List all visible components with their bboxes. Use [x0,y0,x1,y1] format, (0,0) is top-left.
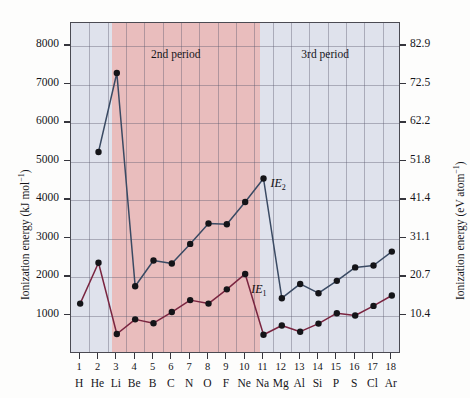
data-point [334,310,340,316]
series-label-ie1: IE1 [251,282,266,298]
data-point [150,257,156,263]
data-point [297,281,303,287]
data-point [95,260,101,266]
y-tick-label-left: 1000 [0,307,59,319]
series-label-ie1-sub: 1 [262,289,266,298]
data-point [297,328,303,334]
y-tick-right [400,44,406,46]
y-tick-label-left: 3000 [0,230,59,242]
series-label-ie2: IE2 [271,176,286,192]
data-point [260,175,266,181]
y-tick-label-right: 20.7 [410,268,430,280]
data-point [187,241,193,247]
annotation-3rd-period: 3rd period [301,48,349,60]
y-tick-label-left: 8000 [0,37,59,49]
y-axis-right-title-sup: −1 [452,165,461,174]
data-point [169,309,175,315]
data-point [370,303,376,309]
data-point [205,300,211,306]
data-point [169,260,175,266]
x-tick [207,353,208,359]
data-point [370,262,376,268]
y-tick-right [400,237,406,239]
data-point [187,297,193,303]
y-axis-left-title-sup: −1 [17,173,26,182]
x-tick [372,353,373,359]
y-axis-right-title: Ionization energy (eV atom−1) [452,161,466,300]
series-label-ie2-main: IE [271,176,282,190]
x-tick [79,353,80,359]
y-tick-label-right: 82.9 [410,37,430,49]
series-line-ie1 [80,263,392,335]
x-tick [225,353,226,359]
data-point [260,332,266,338]
x-tick-label-number: 18 [376,361,406,372]
data-point [334,278,340,284]
data-point [315,290,321,296]
y-axis-left-title-post: ) [19,169,31,173]
data-point [150,320,156,326]
chart-root: Ionization energy (kJ mol−1) Ionization … [0,0,470,398]
data-point [132,316,138,322]
y-tick-label-left: 2000 [0,268,59,280]
x-tick [317,353,318,359]
x-tick [335,353,336,359]
y-tick-label-left: 4000 [0,191,59,203]
y-tick-label-right: 72.5 [410,76,430,88]
y-tick-right [400,275,406,277]
data-point [205,220,211,226]
y-tick-label-right: 41.4 [410,191,430,203]
plot-area: 2nd period 3rd period IE1 IE2 [70,22,400,353]
x-tick [390,353,391,359]
y-tick-label-right: 10.4 [410,307,430,319]
x-tick [262,353,263,359]
y-axis-right-title-pre: Ionization energy (eV atom [454,174,466,300]
y-tick-right [400,160,406,162]
data-point [242,199,248,205]
data-point [315,320,321,326]
series-curves [71,23,400,353]
x-tick-label-symbol: Ar [376,377,406,389]
y-tick-label-right: 62.2 [410,114,430,126]
x-tick [97,353,98,359]
data-point [114,70,120,76]
data-point [242,271,248,277]
x-tick [354,353,355,359]
x-tick [170,353,171,359]
x-tick [280,353,281,359]
y-tick-right [400,314,406,316]
x-tick [189,353,190,359]
y-tick-right [400,121,406,123]
data-point [389,292,395,298]
data-point [114,331,120,337]
data-point [352,312,358,318]
series-label-ie1-main: IE [251,282,262,296]
x-tick [134,353,135,359]
x-tick [152,353,153,359]
data-point [95,149,101,155]
y-tick-label-left: 6000 [0,114,59,126]
series-label-ie2-sub: 2 [282,184,286,193]
data-point [224,221,230,227]
y-tick-right [400,198,406,200]
data-point [279,322,285,328]
y-tick-label-right: 51.8 [410,153,430,165]
y-tick-label-left: 7000 [0,76,59,88]
data-point [132,283,138,289]
data-point [389,248,395,254]
y-axis-right-title-post: ) [454,161,466,165]
y-tick-label-right: 31.1 [410,230,430,242]
x-tick [299,353,300,359]
y-tick-right [400,83,406,85]
data-point [279,295,285,301]
x-tick [244,353,245,359]
y-tick-label-left: 5000 [0,153,59,165]
annotation-2nd-period: 2nd period [151,48,201,60]
data-point [77,300,83,306]
data-point [224,286,230,292]
data-point [352,264,358,270]
x-tick [115,353,116,359]
series-line-ie2 [99,73,392,298]
